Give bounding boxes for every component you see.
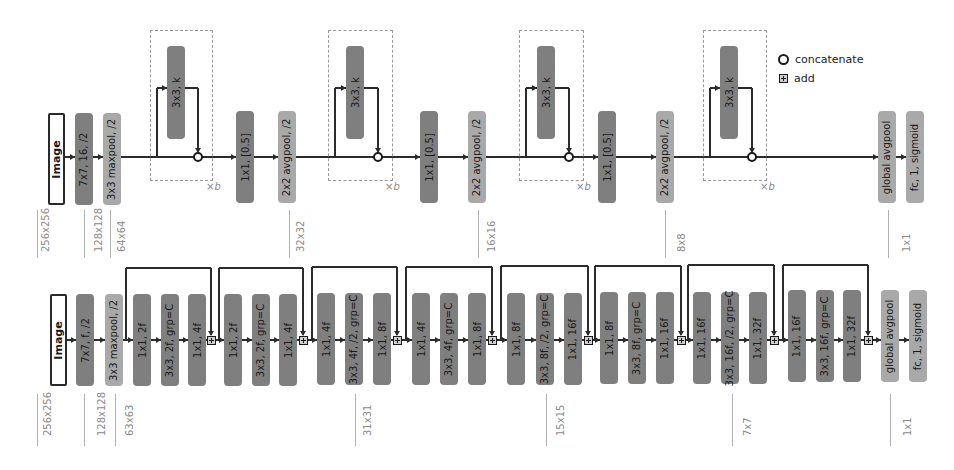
layer-b2_c2: 3x3, 2f, grp=C (252, 294, 270, 386)
dimension-label: 7x7 (742, 417, 753, 436)
layer-label: 1x1, 16f (568, 318, 579, 359)
layer-b5_c2: 3x3, 8f, /2, grp=C (536, 293, 554, 385)
layer-label: Image (52, 321, 65, 359)
connector-line (501, 265, 588, 267)
dimension-marker (732, 394, 733, 446)
layer-dense1: 3x3, k (167, 46, 185, 139)
layer-dense2: 3x3, k (346, 46, 364, 139)
layer-label: 1x1, [0.5] (602, 133, 613, 182)
connector-line (156, 88, 158, 157)
dimension-marker (110, 210, 111, 258)
repeat-label: ×b (206, 181, 221, 192)
dimension-label: 8x8 (676, 233, 687, 252)
legend-concatenate: concatenate (778, 53, 863, 66)
connector-line (218, 268, 220, 340)
layer-b7_c1: 1x1, 16f (693, 292, 711, 384)
layer-label: 1x1, 32f (753, 317, 764, 358)
layer-gap: global avgpool (881, 290, 899, 382)
connector-line (867, 265, 869, 335)
layer-b7_c2: 3x3, 16f, /2, grp=C (721, 292, 739, 384)
layer-b1_c1: 1x1, 2f (133, 294, 151, 386)
layer-b3_c1: 1x1, 4f (317, 293, 335, 385)
layer-label: 3x3, k (724, 77, 735, 108)
layer-label: Image (50, 140, 63, 178)
layer-trans3_conv: 1x1, [0.5] (598, 111, 616, 203)
layer-b1_c3: 1x1, 4f (188, 294, 206, 386)
connector-line (680, 266, 682, 335)
layer-b8_c3: 1x1, 32f (843, 290, 861, 382)
connector-line (302, 268, 304, 335)
layer-trans2_conv: 1x1, [0.5] (420, 111, 438, 203)
dimension-label: 128x128 (96, 392, 107, 436)
layer-maxpool: 3x3 maxpool, /2 (103, 113, 121, 205)
connector-line (500, 266, 502, 340)
dimension-marker (665, 210, 666, 258)
concatenate-icon (564, 152, 574, 162)
add-icon (488, 336, 497, 345)
connector-line (396, 267, 398, 335)
layer-gap: global avgpool (878, 111, 896, 203)
layer-label: 7x7, f, /2 (80, 318, 91, 363)
dimension-label: 31x31 (362, 405, 373, 436)
connector-line (568, 88, 570, 152)
architecture-diagram: ×b×b×b×bImage7x7, 16, /23x3 maxpool, /23… (0, 0, 954, 470)
dimension-label: 15x15 (555, 405, 566, 436)
layer-label: 3x3, 8f, /2, grp=C (540, 294, 551, 384)
layer-label: 1x1, 8f (511, 322, 522, 357)
layer-image: Image (48, 113, 65, 205)
dimension-marker (37, 210, 38, 258)
connector-line (616, 156, 656, 158)
connector-line (555, 87, 569, 89)
connector-line (334, 88, 336, 157)
layer-label: 1x1, 16f (660, 317, 671, 358)
repeat-label: ×b (760, 181, 775, 192)
layer-label: 1x1, 32f (847, 315, 858, 356)
layer-label: 1x1, 4f (283, 323, 294, 358)
layer-label: 3x3, 4f, grp=C (444, 302, 455, 375)
dimension-label: 128x128 (93, 208, 104, 252)
add-icon (770, 336, 779, 345)
dimension-marker (478, 210, 479, 258)
legend-add: add (779, 72, 815, 85)
layer-label: 3x3, 2f, grp=C (165, 303, 176, 376)
repeat-label: ×b (576, 181, 591, 192)
layer-b4_c3: 1x1, 8f (468, 293, 486, 385)
connector-line (364, 87, 378, 89)
concatenate-icon (193, 152, 203, 162)
layer-label: 3x3, 8f, grp=C (632, 301, 643, 374)
add-icon (207, 336, 216, 345)
add-icon (779, 74, 788, 83)
dimension-marker (546, 394, 547, 446)
connector-line (197, 88, 199, 152)
layer-label: 1x1, 4f (416, 322, 427, 357)
layer-label: 2x2 avgpool, /2 (472, 118, 483, 196)
connector-line (405, 267, 407, 340)
layer-label: 3x3, k (171, 77, 182, 108)
layer-trans1_pool: 2x2 avgpool, /2 (278, 111, 296, 203)
layer-label: 3x3, 16f, /2, grp=C (725, 290, 736, 386)
layer-label: 2x2 avgpool, /2 (660, 118, 671, 196)
layer-label: 1x1, 8f (604, 321, 615, 356)
concatenate-icon (373, 152, 383, 162)
layer-label: fc, 1, sigmoid (910, 123, 921, 190)
dimension-marker (37, 394, 38, 446)
connector-line (595, 265, 681, 267)
layer-b2_c3: 1x1, 4f (279, 294, 297, 386)
layer-b3_c3: 1x1, 8f (373, 293, 391, 385)
layer-trans3_pool: 2x2 avgpool, /2 (656, 111, 674, 203)
connector-line (210, 268, 212, 335)
layer-label: 1x1, 16f (792, 315, 803, 356)
dimension-marker (355, 394, 356, 446)
dimension-label: 64x64 (116, 221, 127, 252)
connector-line (126, 267, 211, 269)
layer-b4_c2: 3x3, 4f, grp=C (440, 293, 458, 385)
layer-label: 3x3 maxpool, /2 (109, 299, 120, 380)
connector-line (377, 88, 379, 152)
connector-line (738, 87, 752, 89)
layer-label: 1x1, 4f (321, 322, 332, 357)
layer-label: global avgpool (885, 299, 896, 372)
layer-b3_c2: 3x3, 4f, /2, grp=C (345, 293, 363, 385)
layer-image: Image (50, 294, 67, 386)
layer-b6_c3: 1x1, 16f (656, 292, 674, 384)
layer-fc: fc, 1, sigmoid (909, 290, 927, 382)
